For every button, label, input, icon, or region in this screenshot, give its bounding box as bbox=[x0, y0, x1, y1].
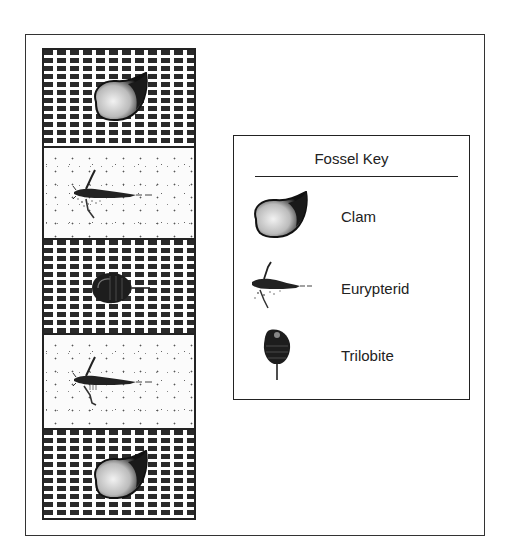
key-item-clam: Clam bbox=[250, 191, 460, 241]
rock-column bbox=[42, 48, 196, 520]
layer-2-sandstone bbox=[44, 146, 194, 238]
layer-3-shale bbox=[44, 238, 194, 333]
layer-4-sandstone bbox=[44, 333, 194, 428]
key-item-eurypterid: Eurypterid bbox=[250, 258, 460, 318]
clam-icon bbox=[88, 450, 152, 502]
key-label-eurypterid: Eurypterid bbox=[341, 280, 409, 297]
eurypterid-icon bbox=[72, 353, 162, 413]
layer-1-shale bbox=[44, 50, 194, 146]
trilobite-icon bbox=[250, 326, 314, 384]
key-label-trilobite: Trilobite bbox=[341, 347, 394, 364]
clam-icon bbox=[250, 191, 314, 241]
key-label-clam: Clam bbox=[341, 208, 376, 225]
eurypterid-icon bbox=[72, 166, 162, 226]
trilobite-icon bbox=[88, 270, 158, 306]
key-title: Fossel Key bbox=[234, 150, 469, 167]
layer-5-shale bbox=[44, 428, 194, 518]
key-divider bbox=[255, 176, 458, 177]
fossil-key: Fossel Key Clam Eurypterid Trilobite bbox=[233, 135, 470, 400]
clam-icon bbox=[88, 72, 152, 124]
eurypterid-icon bbox=[250, 258, 314, 318]
key-item-trilobite: Trilobite bbox=[250, 326, 460, 384]
